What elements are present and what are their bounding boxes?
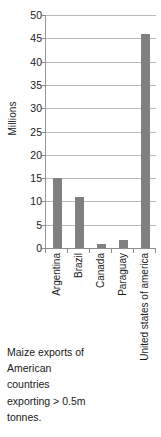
x-axis-label-slot: Brazil (67, 253, 89, 343)
bar-series (46, 15, 156, 248)
y-axis-tick-label: 30 (18, 103, 42, 113)
plot-area (45, 15, 155, 248)
x-axis-category-label: Canada (95, 253, 106, 288)
x-axis-category-label: Brazil (73, 253, 84, 278)
caption-line: American (7, 360, 115, 376)
y-axis-tick-label: 40 (18, 57, 42, 67)
x-axis-category-label: Argentina (51, 253, 62, 296)
y-axis-tick-label: 20 (18, 150, 42, 160)
y-axis-tick-label: 15 (18, 173, 42, 183)
x-axis-label-slot: Canada (89, 253, 111, 343)
x-axis-category-label: Paraguay (117, 253, 128, 296)
bar (141, 34, 150, 248)
y-axis-tick-label: 50 (18, 10, 42, 20)
caption-line: countries (7, 376, 115, 392)
bar-chart: Millions 50454035302520151050 ArgentinaB… (0, 0, 161, 340)
y-axis-tick-label: 0 (18, 243, 42, 253)
x-axis-label-slot: Argentina (45, 253, 67, 343)
bar (119, 240, 128, 248)
y-axis-tick-label: 5 (18, 220, 42, 230)
y-axis-tick-label: 25 (18, 127, 42, 137)
bar (53, 178, 62, 248)
x-axis-label-slot: Paraguay (111, 253, 133, 343)
y-axis-tick-labels: 50454035302520151050 (18, 0, 42, 248)
chart-figure: Millions 50454035302520151050 ArgentinaB… (0, 0, 161, 437)
caption-line: Maize exports of (7, 344, 115, 360)
bar (75, 197, 84, 248)
figure-caption: Maize exports ofAmericancountriesexporti… (7, 344, 115, 425)
caption-line: tonnes. (7, 409, 115, 425)
y-axis-tick-label: 10 (18, 196, 42, 206)
caption-line: exporting > 0.5m (7, 393, 115, 409)
x-axis-category-label: United states of america (139, 253, 150, 361)
y-axis-tick-label: 45 (18, 33, 42, 43)
y-axis-tick-label: 35 (18, 80, 42, 90)
x-axis-label-slot: United states of america (133, 253, 155, 343)
y-axis-title: Millions (7, 84, 18, 154)
x-axis-category-labels: ArgentinaBrazilCanadaParaguayUnited stat… (45, 253, 157, 343)
